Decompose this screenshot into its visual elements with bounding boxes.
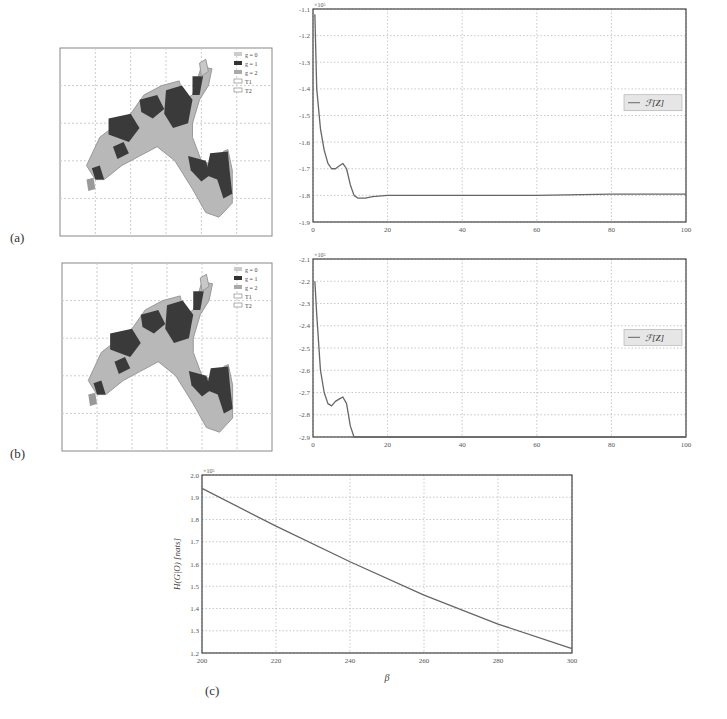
y-tick-label: 2.0 (190, 472, 199, 480)
x-tick-label: 0 (311, 226, 315, 234)
y-scale-note: ×10⁵ (314, 252, 325, 258)
y-tick-label: -1.3 (299, 59, 311, 67)
y-tick-label: 1.3 (190, 627, 199, 635)
x-axis-label: β (384, 672, 390, 683)
panel-label-c: (c) (205, 683, 219, 699)
x-tick-label: 80 (608, 441, 616, 449)
y-tick-label: 1.7 (190, 538, 199, 546)
svg-text:ℱ[Z]: ℱ[Z] (645, 333, 665, 343)
y-tick-label: -2.6 (299, 367, 311, 375)
x-tick-label: 0 (311, 441, 315, 449)
svg-text:T2: T2 (245, 303, 252, 309)
x-tick-label: 40 (459, 441, 467, 449)
y-tick-label: -1.8 (299, 192, 311, 200)
y-tick-label: 1.9 (190, 494, 199, 502)
panel-label-a: (a) (10, 230, 24, 246)
x-tick-label: 220 (271, 657, 282, 665)
map-panel-b: g = 0g = 1g = 2T1T2 (62, 263, 272, 451)
chart-legend: ℱ[Z] (624, 95, 682, 111)
y-tick-label: -2.1 (299, 256, 311, 264)
chart-legend: ℱ[Z] (624, 329, 682, 345)
svg-text:g = 0: g = 0 (245, 52, 257, 58)
y-tick-label: -2.7 (299, 389, 311, 397)
y-scale-note: ×10⁵ (203, 468, 214, 474)
panel-label-b: (b) (10, 446, 25, 462)
y-tick-label: -2.5 (299, 345, 311, 353)
x-tick-label: 60 (533, 441, 541, 449)
x-tick-label: 100 (681, 226, 692, 234)
x-tick-label: 200 (197, 657, 208, 665)
svg-text:ℱ[Z]: ℱ[Z] (645, 98, 665, 108)
y-tick-label: -1.9 (299, 219, 311, 227)
y-tick-label: -1.2 (299, 32, 311, 40)
y-tick-label: 1.2 (190, 650, 199, 658)
y-tick-label: -1.1 (299, 6, 311, 14)
chart-a-free-energy: 020406080100-1.1-1.2-1.3-1.4-1.5-1.6-1.7… (299, 2, 692, 234)
y-axis-label: H(G|O) [nats] (172, 537, 182, 591)
map-panel-a: g = 0g = 1g = 2T1T2 (60, 48, 272, 236)
x-tick-label: 20 (384, 441, 392, 449)
y-tick-label: -1.4 (299, 85, 311, 93)
svg-text:g = 1: g = 1 (245, 276, 257, 282)
figure-canvas: g = 0g = 1g = 2T1T2g = 0g = 1g = 2T1T202… (0, 0, 727, 719)
y-tick-label: 1.5 (190, 583, 199, 591)
svg-text:T1: T1 (245, 294, 252, 300)
x-tick-label: 40 (459, 226, 467, 234)
svg-text:g = 2: g = 2 (245, 285, 257, 291)
x-tick-label: 80 (608, 226, 616, 234)
x-tick-label: 60 (533, 226, 541, 234)
svg-text:g = 0: g = 0 (245, 267, 257, 273)
y-tick-label: 1.6 (190, 561, 199, 569)
chart-b-free-energy: 020406080100-2.1-2.2-2.3-2.4-2.5-2.6-2.7… (299, 252, 692, 449)
y-tick-label: 1.8 (190, 516, 199, 524)
y-tick-label: -2.4 (299, 322, 311, 330)
x-tick-label: 20 (384, 226, 392, 234)
x-tick-label: 260 (419, 657, 430, 665)
y-tick-label: -2.2 (299, 278, 311, 286)
svg-text:T1: T1 (245, 79, 252, 85)
x-tick-label: 280 (493, 657, 504, 665)
y-scale-note: ×10⁵ (314, 2, 325, 8)
svg-text:g = 1: g = 1 (245, 61, 257, 67)
y-tick-label: -2.3 (299, 300, 311, 308)
svg-text:T2: T2 (245, 88, 252, 94)
x-tick-label: 240 (345, 657, 356, 665)
svg-text:g = 2: g = 2 (245, 70, 257, 76)
x-tick-label: 100 (681, 441, 692, 449)
y-tick-label: -2.8 (299, 411, 311, 419)
y-tick-label: -1.7 (299, 165, 311, 173)
y-tick-label: -2.9 (299, 434, 311, 442)
x-tick-label: 300 (567, 657, 578, 665)
y-tick-label: -1.6 (299, 139, 311, 147)
y-tick-label: 1.4 (190, 605, 199, 613)
y-tick-label: -1.5 (299, 112, 311, 120)
chart-c-entropy: 2002202402602803002.01.91.81.71.61.51.41… (172, 468, 578, 683)
